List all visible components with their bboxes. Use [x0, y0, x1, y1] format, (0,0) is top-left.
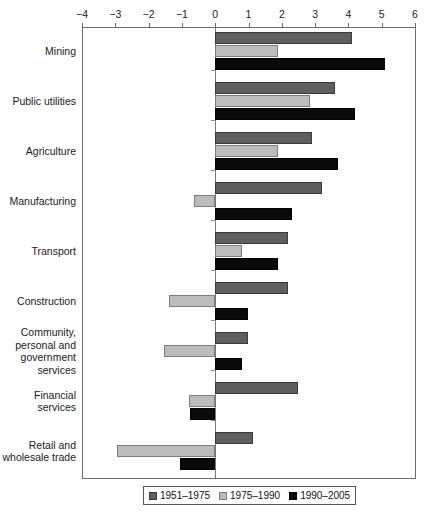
bar-2 [180, 458, 215, 470]
bar-1 [189, 395, 216, 407]
bar-2 [215, 308, 248, 320]
axis-minor-tick [211, 70, 216, 71]
legend-item: 1975–1990 [219, 490, 280, 501]
x-tick-label: 0 [200, 8, 230, 20]
category-axis-label: Construction [0, 295, 76, 308]
x-tick-label: −3 [100, 8, 130, 20]
category-axis-label-line: services [0, 364, 76, 377]
x-tick-label: 1 [234, 8, 264, 20]
legend-swatch-icon [219, 492, 227, 500]
bar-2 [215, 108, 355, 120]
bar-2 [215, 158, 338, 170]
category-group: Manufacturing [0, 182, 428, 232]
bar-2 [215, 258, 278, 270]
category-axis-label-line: personal and [0, 339, 76, 352]
category-axis-label: Transport [0, 245, 76, 258]
category-axis-label-line: Public utilities [0, 95, 76, 108]
bar-0 [215, 232, 288, 244]
category-group: Construction [0, 282, 428, 332]
x-tick-label: 5 [367, 8, 397, 20]
legend-label: 1951–1975 [160, 490, 210, 501]
category-axis-label: Financialservices [0, 389, 76, 414]
category-group: Community,personal andgovernmentservices [0, 332, 428, 382]
category-axis-label: Retail andwholesale trade [0, 439, 76, 464]
category-axis-label-line: Mining [0, 45, 76, 58]
x-tick-label: 4 [333, 8, 363, 20]
category-axis-label-line: Transport [0, 245, 76, 258]
bar-1 [215, 245, 242, 257]
category-group: Transport [0, 232, 428, 282]
bar-2 [215, 358, 242, 370]
bar-1 [164, 345, 216, 357]
bar-2 [190, 408, 215, 420]
x-axis-tick-labels: −4−3−2−10123456 [0, 8, 428, 22]
axis-minor-tick [211, 420, 216, 421]
bar-0 [215, 382, 298, 394]
bar-1 [215, 145, 278, 157]
axis-minor-tick [211, 220, 216, 221]
x-tick-label: 2 [267, 8, 297, 20]
plot-area: MiningPublic utilitiesAgricultureManufac… [0, 28, 428, 478]
category-group: Agriculture [0, 132, 428, 182]
category-group: Retail andwholesale trade [0, 432, 428, 482]
x-tick-label: 3 [300, 8, 330, 20]
category-group: Public utilities [0, 82, 428, 132]
horizontal-bar-chart: −4−3−2−10123456 MiningPublic utilitiesAg… [0, 0, 428, 516]
bar-2 [215, 208, 292, 220]
x-tick-label: −1 [167, 8, 197, 20]
legend-label: 1990–2005 [300, 490, 350, 501]
category-axis-label-line: Agriculture [0, 145, 76, 158]
category-axis-label: Public utilities [0, 95, 76, 108]
bar-0 [215, 82, 335, 94]
bar-1 [169, 295, 216, 307]
axis-minor-tick [211, 170, 216, 171]
category-axis-label-line: Community, [0, 326, 76, 339]
bar-0 [215, 332, 248, 344]
category-axis-label-line: services [0, 401, 76, 414]
axis-minor-tick [211, 370, 216, 371]
axis-minor-tick [211, 320, 216, 321]
bar-0 [215, 32, 352, 44]
category-axis-label: Mining [0, 45, 76, 58]
category-group: Financialservices [0, 382, 428, 432]
axis-minor-tick [211, 120, 216, 121]
bar-0 [215, 282, 288, 294]
category-group: Mining [0, 32, 428, 82]
bar-0 [215, 432, 253, 444]
bar-1 [117, 445, 215, 457]
legend-item: 1951–1975 [149, 490, 210, 501]
category-axis-label: Community,personal andgovernmentservices [0, 326, 76, 376]
axis-minor-tick [211, 270, 216, 271]
category-axis-label-line: Manufacturing [0, 195, 76, 208]
x-tick-label: −4 [67, 8, 97, 20]
category-axis-label-line: Financial [0, 389, 76, 402]
category-axis-label-line: Retail and [0, 439, 76, 452]
x-tick-label: 6 [400, 8, 428, 20]
legend-swatch-icon [149, 492, 157, 500]
legend-item: 1990–2005 [289, 490, 350, 501]
legend-swatch-icon [289, 492, 297, 500]
x-tick-label: −2 [134, 8, 164, 20]
legend-label: 1975–1990 [230, 490, 280, 501]
category-axis-label: Agriculture [0, 145, 76, 158]
category-axis-label-line: government [0, 351, 76, 364]
category-axis-label: Manufacturing [0, 195, 76, 208]
bar-1 [194, 195, 216, 207]
bar-0 [215, 182, 322, 194]
category-axis-label-line: Construction [0, 295, 76, 308]
bar-1 [215, 95, 310, 107]
chart-legend: 1951–19751975–19901990–2005 [143, 486, 356, 505]
category-axis-label-line: wholesale trade [0, 451, 76, 464]
bar-2 [215, 58, 385, 70]
bar-1 [215, 45, 278, 57]
bar-0 [215, 132, 312, 144]
